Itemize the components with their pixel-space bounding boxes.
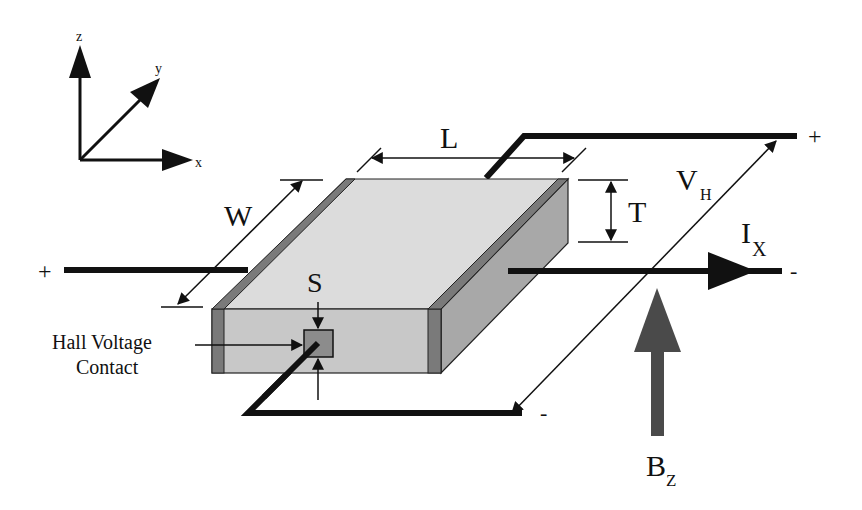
current-input-wire: + xyxy=(38,258,248,284)
field-arrowhead-icon xyxy=(634,288,681,352)
current-arrowhead-icon xyxy=(708,252,756,290)
right-electrode xyxy=(428,309,441,373)
current-label: I X xyxy=(741,216,767,260)
hall-voltage-subscript: H xyxy=(700,186,712,203)
field-arrow-shaft xyxy=(651,350,664,436)
left-electrode xyxy=(212,309,224,373)
x-axis-arrowhead-icon xyxy=(162,149,193,171)
current-minus-terminal: - xyxy=(790,258,797,283)
current-subscript: X xyxy=(752,238,767,260)
contact-size-label: S xyxy=(307,267,323,298)
hall-voltage-plus-terminal: + xyxy=(808,123,822,149)
magnetic-field: B Z xyxy=(634,288,681,490)
z-axis-arrowhead-icon xyxy=(69,45,91,78)
callout-line-2: Contact xyxy=(76,356,139,378)
current-symbol: I xyxy=(741,216,751,249)
width-label: W xyxy=(224,199,253,232)
length-label: L xyxy=(440,121,458,154)
hall-voltage-minus-terminal: - xyxy=(540,400,547,425)
z-axis-label: z xyxy=(76,29,82,44)
coordinate-axes: z y x xyxy=(69,29,202,171)
dimension-thickness: T xyxy=(578,180,646,242)
dimension-length: L xyxy=(357,121,586,172)
semiconductor-slab xyxy=(212,179,568,373)
x-axis-label: x xyxy=(195,155,202,170)
thickness-label: T xyxy=(628,195,646,228)
field-subscript: Z xyxy=(666,471,676,490)
current-plus-terminal: + xyxy=(38,258,52,284)
hall-voltage-plus-wire: + xyxy=(486,123,822,178)
hall-voltage-symbol: V xyxy=(676,163,698,196)
hall-effect-diagram: z y x + - + - xyxy=(0,0,862,510)
field-symbol: B xyxy=(646,449,666,482)
callout-line-1: Hall Voltage xyxy=(52,331,152,354)
y-axis-label: y xyxy=(155,61,162,76)
